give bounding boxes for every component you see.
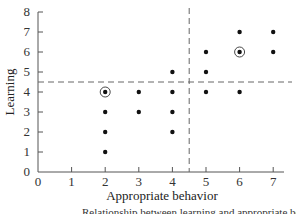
y-axis-title: Learning	[2, 68, 17, 115]
x-tick-label: 5	[203, 174, 210, 189]
data-point	[204, 70, 208, 74]
x-tick-label: 4	[169, 174, 176, 189]
x-tick-label: 2	[102, 174, 109, 189]
data-point	[103, 150, 107, 154]
data-point	[170, 130, 174, 134]
y-tick-label: 6	[24, 44, 31, 59]
data-point	[103, 130, 107, 134]
figure-caption: Relationship between learning and approp…	[82, 206, 296, 214]
y-tick-label: 3	[24, 104, 31, 119]
x-tick-label: 6	[236, 174, 243, 189]
data-point	[103, 90, 107, 94]
data-point	[237, 30, 241, 34]
data-point	[137, 90, 141, 94]
scatter-chart: 01234567801234567Appropriate behaviorLea…	[0, 0, 296, 214]
y-tick-label: 1	[24, 144, 31, 159]
data-point	[204, 50, 208, 54]
data-point	[237, 50, 241, 54]
data-point	[271, 30, 275, 34]
data-point	[237, 90, 241, 94]
y-tick-label: 8	[24, 4, 31, 19]
x-tick-label: 0	[35, 174, 42, 189]
data-point	[103, 110, 107, 114]
y-tick-label: 7	[24, 24, 31, 39]
y-tick-label: 4	[24, 84, 31, 99]
data-point	[170, 90, 174, 94]
data-point	[170, 70, 174, 74]
data-point	[137, 110, 141, 114]
x-axis-title: Appropriate behavior	[106, 188, 218, 203]
y-tick-label: 2	[24, 124, 31, 139]
x-tick-label: 7	[270, 174, 277, 189]
data-point	[170, 110, 174, 114]
y-tick-label: 5	[24, 64, 31, 79]
data-point	[271, 50, 275, 54]
x-tick-label: 1	[68, 174, 75, 189]
x-tick-label: 3	[136, 174, 143, 189]
data-point	[204, 90, 208, 94]
y-tick-label: 0	[24, 164, 31, 179]
